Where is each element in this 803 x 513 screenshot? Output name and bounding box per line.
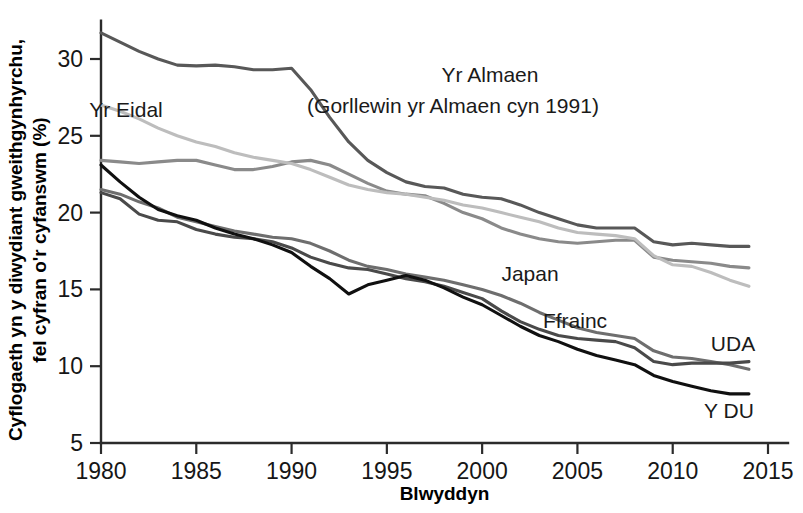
- x-tick-label: 2015: [742, 458, 793, 484]
- series-line-japan: [101, 160, 749, 268]
- y-tick-label: 25: [57, 123, 83, 149]
- x-tick-label: 1995: [361, 458, 412, 484]
- y-tick-label: 15: [57, 276, 83, 302]
- series-line-yr-eidal: [101, 105, 749, 286]
- series-label-usa: UDA: [711, 332, 755, 355]
- x-tick-label: 2005: [552, 458, 603, 484]
- series-label-japan: Japan: [501, 262, 558, 285]
- series-label-france: Ffrainc: [543, 309, 607, 332]
- line-chart: 5101520253019801985199019952000200520102…: [0, 0, 803, 513]
- y-tick-label: 5: [70, 430, 83, 456]
- y-tick-label: 10: [57, 353, 83, 379]
- x-tick-label: 2000: [457, 458, 508, 484]
- y-axis-title: Cyflogaeth yn y diwydiant gweithgynhyrch…: [5, 39, 50, 441]
- y-tick-label: 30: [57, 46, 83, 72]
- series-line-yr-almaen: [101, 33, 749, 247]
- x-tick-label: 1980: [75, 458, 126, 484]
- series-label-germany: Yr Almaen: [442, 63, 539, 86]
- x-tick-label: 1990: [266, 458, 317, 484]
- x-tick-group: 19801985199019952000200520102015: [75, 443, 793, 484]
- x-axis-title: Blwyddyn: [400, 483, 490, 504]
- x-tick-label: 2010: [647, 458, 698, 484]
- series-group: [101, 33, 749, 394]
- chart-container: 5101520253019801985199019952000200520102…: [0, 0, 803, 513]
- y-tick-label: 20: [57, 200, 83, 226]
- y-axis-title-line-2: fel cyfran o'r cyfanswm (%): [29, 117, 50, 362]
- y-axis-title-line-1: Cyflogaeth yn y diwydiant gweithgynhyrch…: [5, 39, 26, 441]
- series-label-uk: Y DU: [704, 399, 754, 422]
- series-label-germany2: (Gorllewin yr Almaen cyn 1991): [307, 94, 599, 117]
- series-label-italy: Yr Eidal: [89, 98, 163, 121]
- x-tick-label: 1985: [171, 458, 222, 484]
